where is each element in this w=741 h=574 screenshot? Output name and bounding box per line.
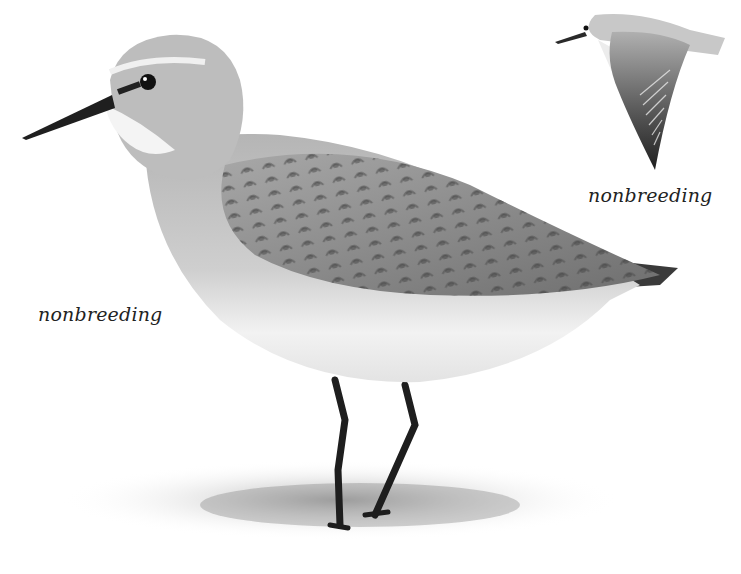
bird-illustration: [0, 0, 741, 574]
caption-nonbreeding-standing: nonbreeding: [38, 303, 163, 325]
flying-bird: [555, 14, 725, 170]
standing-bird: [22, 35, 678, 528]
caption-nonbreeding-flight: nonbreeding: [588, 184, 713, 206]
